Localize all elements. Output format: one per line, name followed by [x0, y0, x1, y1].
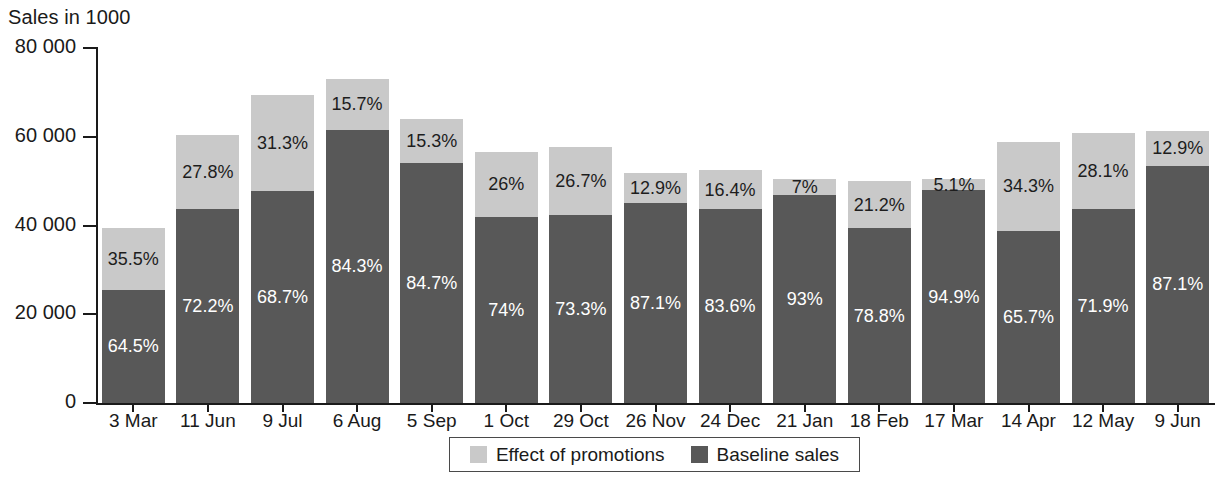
bar-group[interactable]: 74%26% [475, 152, 538, 403]
bar-segment-baseline-sales[interactable]: 72.2% [176, 209, 239, 403]
bar-segment-baseline-sales[interactable]: 74% [475, 217, 538, 403]
bar-group[interactable]: 71.9%28.1% [1072, 133, 1135, 403]
x-axis-category-label: 12 May [1066, 410, 1141, 432]
bar-segment-label-baseline: 94.9% [928, 288, 979, 306]
y-axis-tick [83, 313, 96, 315]
y-axis-tick-label: 60 000 [15, 124, 76, 147]
bar-segment-baseline-sales[interactable]: 83.6% [699, 209, 762, 403]
bar-segment-effect-of-promotions[interactable]: 28.1% [1072, 133, 1135, 209]
x-axis-category-label: 3 Mar [96, 410, 171, 432]
bar-segment-effect-of-promotions[interactable]: 5.1% [922, 179, 985, 191]
y-axis-tick [83, 136, 96, 138]
bar-segment-effect-of-promotions[interactable]: 7% [773, 179, 836, 195]
bar-group[interactable]: 78.8%21.2% [848, 181, 911, 403]
bar-segment-effect-of-promotions[interactable]: 35.5% [102, 228, 165, 290]
bar-segment-label-baseline: 87.1% [1152, 275, 1203, 293]
x-axis-category-label: 29 Oct [544, 410, 619, 432]
bar-segment-baseline-sales[interactable]: 94.9% [922, 190, 985, 403]
x-axis-category-label: 24 Dec [693, 410, 768, 432]
stacked-bar-chart: Sales in 1000 020 00040 00060 00080 000 … [0, 0, 1226, 486]
bar-group[interactable]: 93%7% [773, 179, 836, 403]
bar-group[interactable]: 84.3%15.7% [326, 79, 389, 403]
bar-segment-label-baseline: 87.1% [630, 294, 681, 312]
chart-legend: Effect of promotions Baseline sales [449, 437, 860, 472]
bar-segment-baseline-sales[interactable]: 68.7% [251, 191, 314, 403]
x-axis-category-label: 11 Jun [171, 410, 246, 432]
bar-segment-label-baseline: 65.7% [1003, 308, 1054, 326]
bar-segment-effect-of-promotions[interactable]: 26% [475, 152, 538, 217]
y-axis-tick [83, 402, 96, 404]
legend-item-effect-of-promotions[interactable]: Effect of promotions [470, 444, 665, 466]
bar-group[interactable]: 65.7%34.3% [997, 142, 1060, 403]
bar-group[interactable]: 87.1%12.9% [624, 173, 687, 403]
x-axis-category-label: 18 Feb [842, 410, 917, 432]
bar-segment-label-baseline: 64.5% [108, 337, 159, 355]
x-axis-category-label: 14 Apr [991, 410, 1066, 432]
bar-segment-label-promotions: 26% [488, 175, 524, 193]
bar-segment-label-promotions: 16.4% [705, 181, 756, 199]
y-axis-tick-label: 20 000 [15, 301, 76, 324]
bar-segment-baseline-sales[interactable]: 71.9% [1072, 209, 1135, 403]
y-axis-tick-label: 40 000 [15, 213, 76, 236]
legend-label-promotions: Effect of promotions [496, 444, 665, 466]
x-axis-category-label: 17 Mar [917, 410, 992, 432]
x-axis-category-label: 21 Jan [767, 410, 842, 432]
bar-segment-baseline-sales[interactable]: 64.5% [102, 290, 165, 403]
bar-segment-label-promotions: 12.9% [1152, 139, 1203, 157]
bar-segment-label-baseline: 68.7% [257, 288, 308, 306]
legend-item-baseline-sales[interactable]: Baseline sales [691, 444, 840, 466]
bar-segment-effect-of-promotions[interactable]: 26.7% [549, 147, 612, 215]
bar-segment-label-baseline: 84.3% [332, 257, 383, 275]
bar-segment-baseline-sales[interactable]: 84.3% [326, 130, 389, 403]
bar-segment-baseline-sales[interactable]: 65.7% [997, 231, 1060, 403]
bar-segment-effect-of-promotions[interactable]: 15.7% [326, 79, 389, 130]
bar-segment-baseline-sales[interactable]: 87.1% [624, 203, 687, 403]
bar-segment-label-promotions: 21.2% [854, 196, 905, 214]
bar-segment-label-promotions: 12.9% [630, 179, 681, 197]
bar-segment-label-baseline: 71.9% [1078, 297, 1129, 315]
x-axis-category-label: 9 Jul [245, 410, 320, 432]
bar-segment-baseline-sales[interactable]: 73.3% [549, 215, 612, 403]
bar-group[interactable]: 68.7%31.3% [251, 95, 314, 403]
bar-segment-label-promotions: 31.3% [257, 134, 308, 152]
legend-swatch-promotions [470, 446, 487, 463]
bar-segment-baseline-sales[interactable]: 78.8% [848, 228, 911, 403]
bar-group[interactable]: 87.1%12.9% [1146, 131, 1209, 403]
y-axis-tick [83, 225, 96, 227]
bar-segment-label-promotions: 7% [792, 178, 818, 196]
bar-segment-label-promotions: 28.1% [1078, 162, 1129, 180]
bar-segment-effect-of-promotions[interactable]: 16.4% [699, 170, 762, 208]
bar-segment-baseline-sales[interactable]: 87.1% [1146, 166, 1209, 403]
bar-segment-label-promotions: 35.5% [108, 250, 159, 268]
bar-segment-label-baseline: 74% [488, 301, 524, 319]
bar-segment-label-baseline: 78.8% [854, 307, 905, 325]
x-axis-category-label: 9 Jun [1140, 410, 1215, 432]
bar-segment-effect-of-promotions[interactable]: 12.9% [1146, 131, 1209, 166]
bar-segment-label-baseline: 72.2% [182, 297, 233, 315]
legend-label-baseline: Baseline sales [717, 444, 840, 466]
x-axis-category-label: 1 Oct [469, 410, 544, 432]
y-axis-tick-label: 0 [65, 390, 76, 413]
bar-segment-label-baseline: 93% [787, 290, 823, 308]
bar-group[interactable]: 73.3%26.7% [549, 147, 612, 403]
bar-segment-effect-of-promotions[interactable]: 27.8% [176, 135, 239, 210]
bar-segment-baseline-sales[interactable]: 93% [773, 195, 836, 403]
bar-segment-effect-of-promotions[interactable]: 12.9% [624, 173, 687, 203]
bar-segment-label-baseline: 84.7% [406, 274, 457, 292]
x-axis-category-label: 6 Aug [320, 410, 395, 432]
bar-group[interactable]: 94.9%5.1% [922, 179, 985, 403]
bar-segment-label-baseline: 83.6% [705, 297, 756, 315]
y-axis-tick-label: 80 000 [15, 35, 76, 58]
bar-segment-effect-of-promotions[interactable]: 34.3% [997, 142, 1060, 232]
bar-group[interactable]: 84.7%15.3% [400, 119, 463, 403]
bar-group[interactable]: 83.6%16.4% [699, 170, 762, 403]
bar-segment-effect-of-promotions[interactable]: 21.2% [848, 181, 911, 228]
bar-group[interactable]: 72.2%27.8% [176, 135, 239, 403]
bar-segment-label-promotions: 15.3% [406, 132, 457, 150]
legend-swatch-baseline [691, 446, 708, 463]
y-axis-title: Sales in 1000 [8, 6, 131, 29]
bar-segment-baseline-sales[interactable]: 84.7% [400, 163, 463, 403]
bar-segment-effect-of-promotions[interactable]: 31.3% [251, 95, 314, 191]
bar-group[interactable]: 64.5%35.5% [102, 228, 165, 403]
bar-segment-effect-of-promotions[interactable]: 15.3% [400, 119, 463, 162]
